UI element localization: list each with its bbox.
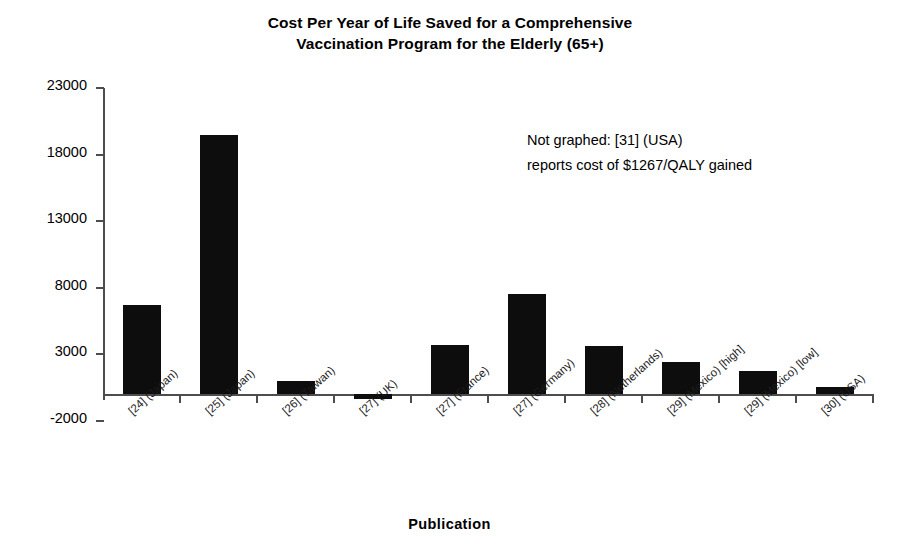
y-axis-tick-label: 23000	[47, 77, 87, 93]
y-axis-tick-label: -2000	[50, 410, 87, 426]
y-axis-tick: 23000	[96, 87, 104, 89]
x-axis-tick	[641, 394, 643, 403]
y-axis-tick-label: 18000	[47, 144, 87, 160]
x-axis-tick	[333, 394, 335, 403]
chart-figure: Cost Per Year of Life Saved for a Compre…	[0, 0, 899, 555]
bar	[508, 294, 546, 394]
y-axis-tick: 8000	[96, 287, 104, 289]
x-axis-tick	[564, 394, 566, 403]
x-axis-tick	[718, 394, 720, 403]
chart-title: Cost Per Year of Life Saved for a Compre…	[150, 12, 750, 54]
x-axis-tick	[410, 394, 412, 403]
y-axis-tick: 18000	[96, 154, 104, 156]
plot-area: 23000180001300080003000-2000 [24] (Japan…	[103, 88, 873, 400]
x-axis-tick	[872, 394, 874, 403]
y-axis-tick: -2000	[96, 420, 104, 422]
y-axis-tick-label: 8000	[55, 277, 87, 293]
chart-title-line-2: Vaccination Program for the Elderly (65+…	[150, 33, 750, 54]
y-axis-tick: 13000	[96, 220, 104, 222]
chart-title-line-1: Cost Per Year of Life Saved for a Compre…	[150, 12, 750, 33]
y-axis-tick-label: 13000	[47, 210, 87, 226]
bar	[200, 135, 238, 394]
x-axis-title: Publication	[0, 516, 899, 532]
x-axis-tick	[487, 394, 489, 403]
x-axis-tick	[795, 394, 797, 403]
x-axis-tick	[179, 394, 181, 403]
y-axis-tick-label: 3000	[55, 343, 87, 359]
y-axis-tick: 3000	[96, 353, 104, 355]
x-axis-tick	[256, 394, 258, 403]
